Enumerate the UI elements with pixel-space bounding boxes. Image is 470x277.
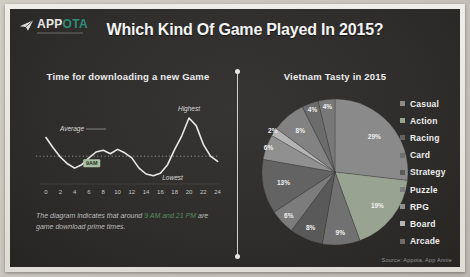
svg-text:Highest: Highest <box>178 105 201 113</box>
svg-text:20: 20 <box>186 189 193 195</box>
legend-label: Puzzle <box>410 185 438 195</box>
svg-text:18: 18 <box>171 189 178 195</box>
legend-item: Card <box>400 147 446 164</box>
header-title: Which Kind Of Game Played In 2015? <box>90 21 400 39</box>
photo-white-mat: APPOTA Which Kind Of Game Played In 2015… <box>5 4 465 272</box>
appota-logo: APPOTA <box>19 18 88 34</box>
svg-text:19%: 19% <box>371 202 384 209</box>
pie-legend: CasualActionRacingCardStrategyPuzzleRPGB… <box>400 95 446 250</box>
legend-swatch <box>400 239 405 244</box>
divider-top-dot <box>235 69 240 74</box>
legend-swatch <box>400 101 405 106</box>
svg-text:6%: 6% <box>264 144 274 151</box>
svg-text:9%: 9% <box>336 229 346 236</box>
svg-text:14: 14 <box>143 189 150 195</box>
line-chart: Average024681012141618202224HighestLowes… <box>22 80 222 198</box>
right-chart-title: Vietnam Tasty in 2015 <box>255 71 415 82</box>
legend-label: Board <box>410 219 436 229</box>
svg-text:16: 16 <box>157 189 164 195</box>
svg-text:8%: 8% <box>296 127 306 134</box>
legend-label: Racing <box>410 133 440 143</box>
legend-item: RPG <box>400 198 446 215</box>
svg-text:4%: 4% <box>308 106 318 113</box>
svg-text:4: 4 <box>73 189 77 195</box>
svg-text:0: 0 <box>44 189 48 195</box>
legend-label: Arcade <box>410 236 440 246</box>
svg-text:9AM: 9AM <box>86 160 98 166</box>
svg-text:4%: 4% <box>323 103 333 110</box>
legend-swatch <box>400 118 405 123</box>
legend-item: Racing <box>400 129 446 146</box>
legend-swatch <box>400 204 405 209</box>
legend-label: RPG <box>410 202 429 212</box>
svg-text:8%: 8% <box>306 224 316 231</box>
legend-swatch <box>400 135 405 140</box>
legend-item: Board <box>400 215 446 232</box>
svg-text:Average: Average <box>59 125 84 133</box>
legend-swatch <box>400 187 405 192</box>
caption-text-prefix: The diagram indicates that around <box>36 212 144 219</box>
legend-label: Action <box>410 116 438 126</box>
pie-chart: 29%19%9%8%6%13%6%2%8%4%4% <box>255 88 415 248</box>
svg-text:8: 8 <box>102 189 106 195</box>
legend-item: Casual <box>400 95 446 112</box>
svg-text:6: 6 <box>87 189 91 195</box>
svg-text:22: 22 <box>200 189 207 195</box>
section-divider <box>237 73 238 255</box>
svg-text:6%: 6% <box>284 212 294 219</box>
chart-caption: The diagram indicates that around 9 AM a… <box>36 211 216 232</box>
logo-wordmark: APPOTA <box>37 18 88 34</box>
legend-label: Card <box>410 150 430 160</box>
legend-item: Strategy <box>400 164 446 181</box>
legend-swatch <box>400 170 405 175</box>
svg-text:13%: 13% <box>277 179 290 186</box>
legend-swatch <box>400 221 405 226</box>
source-note: Source: Appota, App Annie <box>382 257 452 263</box>
svg-text:2%: 2% <box>268 127 278 134</box>
svg-text:12: 12 <box>128 189 135 195</box>
caption-highlight: 9 AM and 21 PM <box>144 212 196 219</box>
legend-item: Puzzle <box>400 181 446 198</box>
divider-bottom-dot <box>235 254 240 259</box>
paper-plane-icon <box>19 18 34 33</box>
legend-label: Casual <box>410 99 439 109</box>
legend-item: Action <box>400 112 446 129</box>
svg-text:2: 2 <box>59 189 63 195</box>
legend-swatch <box>400 153 405 158</box>
legend-item: Arcade <box>400 233 446 250</box>
svg-text:24: 24 <box>214 189 221 195</box>
logo-text-ota: OTA <box>63 17 88 31</box>
logo-tagline-rule <box>37 32 83 34</box>
svg-text:10: 10 <box>114 189 121 195</box>
svg-text:29%: 29% <box>368 133 381 140</box>
legend-label: Strategy <box>410 167 446 177</box>
svg-text:Lowest: Lowest <box>162 174 184 181</box>
infographic-panel: APPOTA Which Kind Of Game Played In 2015… <box>10 9 460 267</box>
logo-text-app: APP <box>37 17 63 31</box>
